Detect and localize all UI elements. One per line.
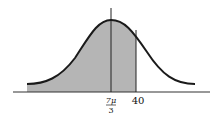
mean-label-numerator: 7μ xyxy=(106,96,116,105)
boundary-label: 40 xyxy=(132,95,145,106)
mean-label-denominator: 3 xyxy=(108,106,113,115)
normal-distribution-figure: 7μ 3 40 xyxy=(0,0,220,122)
